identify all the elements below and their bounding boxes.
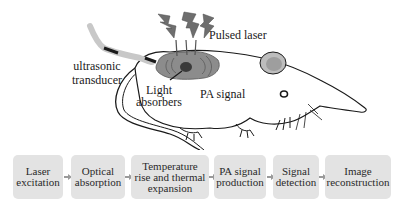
mouse-eye <box>281 91 288 97</box>
step-temperature-rise: Temperaturerise and thermalexpansion <box>131 155 209 199</box>
step-signal-detection: Signaldetection <box>273 155 319 199</box>
light-absorber <box>180 62 192 72</box>
light-absorbers-label-line2: absorbers <box>136 96 182 108</box>
step-text: absorption <box>75 177 121 188</box>
step-text: reconstruction <box>327 177 390 188</box>
step-image-reconstruction: Imagereconstruction <box>325 155 391 199</box>
process-flowchart: Laserexcitation Opticalabsorption Temper… <box>0 150 403 211</box>
tissue-region <box>156 51 219 80</box>
pulsed-laser-label: Pulsed laser <box>209 29 267 41</box>
step-text: detection <box>276 177 316 188</box>
step-laser-excitation: Laserexcitation <box>13 155 63 199</box>
pulsed-laser-bolts <box>158 12 214 56</box>
pa-signal-label: PA signal <box>200 88 245 100</box>
step-text: expansion <box>135 183 206 194</box>
photoacoustic-illustration: Pulsed laser ultrasonic transducer Light… <box>0 0 403 150</box>
step-text: production <box>216 177 264 188</box>
step-text: excitation <box>16 177 59 188</box>
step-text: Temperature <box>135 161 206 172</box>
transducer-label-line1: ultrasonic <box>72 59 122 73</box>
step-pa-signal-production: PA signalproduction <box>214 155 266 199</box>
step-text: rise and thermal <box>135 172 206 183</box>
step-optical-absorption: Opticalabsorption <box>71 155 125 199</box>
transducer-label-line2: transducer <box>72 73 122 87</box>
transducer-label: ultrasonic transducer <box>72 59 122 87</box>
mouse-drawing <box>0 0 403 150</box>
mouse-ear <box>260 52 286 74</box>
light-absorbers-label: Light absorbers <box>136 84 182 108</box>
